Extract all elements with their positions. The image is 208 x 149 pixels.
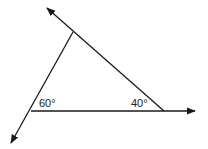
angle-label-60: 60° (39, 97, 56, 109)
ray-top-left (47, 8, 164, 111)
ray-bottom-left (11, 32, 73, 143)
angle-label-40: 40° (131, 97, 148, 109)
triangle-diagram: 60° 40° (0, 0, 208, 149)
